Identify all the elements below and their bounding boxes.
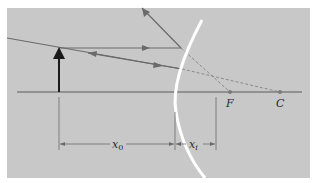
diagram-background <box>7 8 310 178</box>
center-of-curvature-label: C <box>276 97 285 110</box>
convex-mirror-diagram: F C x0 xi <box>0 0 316 183</box>
focal-point-label: F <box>225 97 234 110</box>
focal-point-marker <box>228 90 232 94</box>
center-point-marker <box>278 90 282 94</box>
